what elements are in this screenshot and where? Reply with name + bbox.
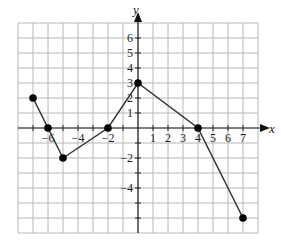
x-tick-label: −4 (72, 131, 85, 145)
y-tick-label: 4 (127, 61, 133, 75)
x-tick-label: 5 (210, 131, 216, 145)
y-tick-label: −2 (120, 151, 133, 165)
data-point (194, 124, 202, 132)
x-tick-label: 1 (150, 131, 156, 145)
x-tick-label: 2 (165, 131, 171, 145)
x-axis-label: x (268, 121, 275, 136)
data-point (44, 124, 52, 132)
x-tick-label: 6 (225, 131, 231, 145)
x-tick-label: 3 (180, 131, 186, 145)
data-point (104, 124, 112, 132)
y-tick-label: −4 (120, 181, 133, 195)
x-tick-label: 7 (240, 131, 246, 145)
y-axis-label: y (131, 2, 139, 17)
y-tick-label: 1 (127, 106, 133, 120)
piecewise-line-graph: −6−4−21234567654321−2−4 x y (0, 0, 281, 248)
data-point (29, 94, 37, 102)
data-point (59, 154, 67, 162)
data-point (134, 79, 142, 87)
data-point (239, 214, 247, 222)
axes (18, 12, 270, 233)
y-tick-label: 6 (127, 31, 133, 45)
y-tick-label: 5 (127, 46, 133, 60)
y-tick-label: 3 (127, 76, 133, 90)
x-tick-label: −2 (102, 131, 115, 145)
